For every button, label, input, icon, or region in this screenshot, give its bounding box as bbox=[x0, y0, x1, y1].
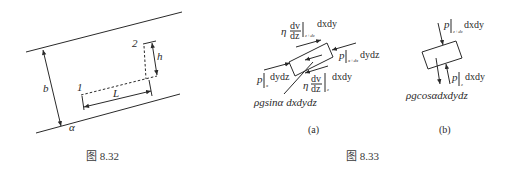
svg-text:dydz: dydz bbox=[270, 71, 290, 82]
figure-8-33-panel-a: η dv dz z+dz dxdy p x+dx dydz p x dydz η… bbox=[253, 18, 380, 136]
svg-text:p: p bbox=[338, 49, 345, 61]
pressure-bottom-arrow bbox=[446, 64, 450, 84]
panel-b-label: (b) bbox=[439, 124, 451, 136]
svg-text:dz: dz bbox=[290, 30, 300, 41]
point-1-label: 1 bbox=[77, 81, 83, 93]
pressure-left-arrow bbox=[264, 63, 290, 70]
label-alpha: α bbox=[69, 121, 75, 133]
shear-top-label: η dv dz z+dz dxdy bbox=[281, 18, 337, 41]
svg-text:dxdy: dxdy bbox=[317, 18, 337, 29]
svg-text:z: z bbox=[460, 82, 463, 87]
figure-8-32-caption: 图 8.32 bbox=[86, 150, 119, 162]
figure-8-32: b 1 2 L h α 图 8.32 bbox=[26, 12, 182, 162]
svg-text:x: x bbox=[265, 83, 269, 88]
pressure-right-label: p x+dx dydz bbox=[338, 49, 380, 63]
svg-text:p: p bbox=[451, 71, 458, 83]
svg-text:dz: dz bbox=[311, 83, 321, 94]
figure-8-33-panel-b: p z+dz dxdy p z dxdy ρgcosαdxdydz (b) bbox=[405, 18, 485, 136]
channel-top-wall bbox=[26, 12, 182, 52]
svg-text:dxdy: dxdy bbox=[332, 71, 352, 82]
shear-bottom-label: η dv dz z dxdy bbox=[303, 71, 352, 94]
svg-text:dxdy: dxdy bbox=[465, 71, 485, 82]
pressure-top-label: p z+dz dxdy bbox=[443, 18, 484, 34]
L-extension-right bbox=[149, 80, 152, 96]
svg-text:z: z bbox=[326, 87, 329, 92]
dashed-line-height bbox=[144, 46, 146, 79]
gravity-sin-label: ρgsinα dxdydz bbox=[253, 96, 317, 108]
pressure-top-arrow bbox=[438, 23, 443, 45]
gravity-cos-label: ρgcosαdxdydz bbox=[405, 89, 468, 101]
svg-text:z+dz: z+dz bbox=[304, 33, 315, 38]
svg-text:η: η bbox=[303, 79, 308, 91]
svg-text:p: p bbox=[443, 18, 450, 30]
svg-text:η: η bbox=[281, 25, 286, 37]
fluid-element-b bbox=[422, 41, 462, 69]
label-h: h bbox=[157, 50, 163, 62]
gravity-cos-arrow bbox=[436, 58, 440, 84]
figure-8-33-caption: 图 8.33 bbox=[346, 150, 380, 162]
point-2-label: 2 bbox=[132, 37, 138, 49]
svg-text:dxdy: dxdy bbox=[464, 19, 484, 30]
panel-a-label: (a) bbox=[308, 124, 319, 136]
svg-text:z+dz: z+dz bbox=[452, 29, 463, 34]
pressure-left-label: p x dydz bbox=[256, 71, 290, 88]
label-L: L bbox=[112, 87, 119, 99]
inner-gravity-arrow bbox=[305, 55, 322, 60]
svg-text:x+dx: x+dx bbox=[347, 58, 359, 63]
L-extension-left bbox=[82, 96, 84, 110]
figure-canvas: b 1 2 L h α 图 8.32 η bbox=[0, 0, 507, 169]
h-extension-top bbox=[143, 41, 156, 44]
label-b: b bbox=[43, 82, 49, 94]
svg-text:p: p bbox=[256, 73, 263, 85]
shear-top-arrow bbox=[296, 40, 321, 47]
pressure-bottom-label: p z dxdy bbox=[451, 71, 485, 87]
svg-text:dydz: dydz bbox=[360, 49, 380, 60]
